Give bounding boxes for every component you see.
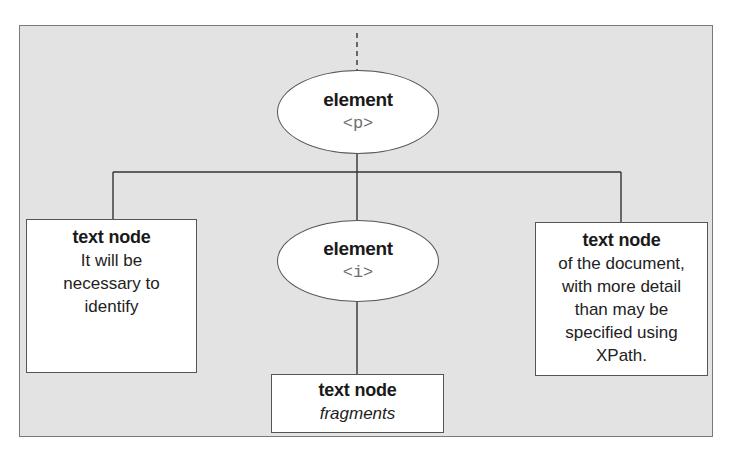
text-node-right: text node of the document, with more det… xyxy=(535,222,708,376)
text-node-bottom-title: text node xyxy=(272,379,443,402)
element-i-title: element xyxy=(323,238,393,260)
text-node-left-body: It will be necessary to identify xyxy=(27,249,196,318)
element-p-node: element <p> xyxy=(277,70,439,154)
element-i-tag: <i> xyxy=(343,262,374,284)
text-node-left: text node It will be necessary to identi… xyxy=(26,219,197,373)
element-i-node: element <i> xyxy=(277,220,439,302)
text-node-right-title: text node xyxy=(536,229,707,252)
element-p-tag: <p> xyxy=(343,113,374,135)
text-node-right-body: of the document, with more detail than m… xyxy=(536,252,707,367)
text-node-bottom-body: fragments xyxy=(272,402,443,425)
text-node-bottom: text node fragments xyxy=(271,374,444,433)
text-node-left-title: text node xyxy=(27,226,196,249)
element-p-title: element xyxy=(323,89,393,111)
